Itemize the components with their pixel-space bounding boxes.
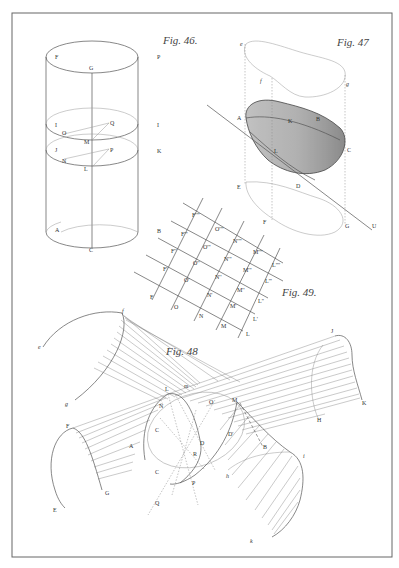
label-L48: L bbox=[165, 386, 169, 392]
label-H48: H bbox=[317, 417, 322, 423]
label-g48: g bbox=[65, 401, 68, 407]
grid-label: N'''' bbox=[233, 238, 242, 244]
label-K: K bbox=[157, 148, 162, 154]
label-B48: B bbox=[263, 444, 267, 450]
grid-label: O bbox=[174, 304, 179, 310]
label-g: g bbox=[346, 81, 349, 87]
label-L: L bbox=[84, 166, 88, 172]
figure-49-title: Fig. 49. bbox=[281, 286, 317, 298]
grid-label: F'' bbox=[171, 248, 177, 254]
grid-label: F' bbox=[163, 266, 167, 272]
grid-label: M' bbox=[230, 303, 236, 309]
grid-label: N' bbox=[207, 292, 212, 298]
grid-label: L'' bbox=[258, 298, 264, 304]
grid-label: O' bbox=[184, 277, 189, 283]
label-B47: B bbox=[316, 116, 320, 122]
grid-label: L' bbox=[253, 316, 258, 322]
label-P48: P bbox=[192, 480, 196, 486]
label-e48: e bbox=[38, 344, 41, 350]
label-J: J bbox=[55, 147, 58, 153]
label-C47: C bbox=[347, 147, 351, 153]
grid-label: M'''' bbox=[253, 249, 263, 255]
figure-46-title: Fig. 46. bbox=[162, 34, 198, 46]
label-i48: i bbox=[303, 453, 305, 459]
label-e: e bbox=[240, 41, 243, 47]
figure-47-projection: Fig. 47 e f g A K B L C E D F G U bbox=[207, 36, 377, 235]
label-A: A bbox=[55, 227, 60, 233]
label-C48a: C bbox=[155, 427, 159, 433]
grid-label: M'' bbox=[237, 287, 245, 293]
label-Q: Q bbox=[110, 120, 115, 126]
label-P-mid: P bbox=[110, 147, 114, 153]
engraving-plate: Fig. 46. F G P I O Q M I J N P L K A B bbox=[0, 0, 399, 568]
label-D48: D bbox=[200, 440, 205, 446]
label-G47: G bbox=[345, 223, 350, 229]
label-Q48: Q bbox=[155, 500, 160, 506]
label-D47: D bbox=[296, 183, 301, 189]
label-K47: K bbox=[288, 118, 293, 124]
grid-label: O'' bbox=[193, 260, 200, 266]
label-N: N bbox=[62, 158, 67, 164]
label-F: F bbox=[55, 54, 59, 60]
grid-label: L''' bbox=[265, 278, 272, 284]
label-K48: K bbox=[362, 400, 367, 406]
label-A47: A bbox=[237, 115, 242, 121]
label-M: M bbox=[84, 139, 90, 145]
label-F48: F bbox=[66, 423, 70, 429]
label-M48: M bbox=[232, 397, 238, 403]
label-O48: O bbox=[209, 399, 214, 405]
label-E48: E bbox=[53, 507, 57, 513]
grid-label: N'' bbox=[215, 274, 222, 280]
label-D2-48: D' bbox=[228, 431, 233, 437]
figure-49-grid: Fig. 49. F'''' O'''' N'''' M'''' L'''' F… bbox=[134, 198, 317, 338]
label-P: P bbox=[157, 54, 161, 60]
grid-label: M''' bbox=[243, 267, 252, 273]
label-J48: J bbox=[331, 328, 334, 334]
label-B: B bbox=[157, 228, 161, 234]
figure-48-intersecting-cylinders: Fig. 48 bbox=[38, 308, 367, 544]
grid-label: M bbox=[221, 323, 227, 329]
label-G: G bbox=[89, 65, 94, 71]
grid-label: L'''' bbox=[272, 262, 280, 268]
label-E47: E bbox=[237, 184, 241, 190]
label-f48: f bbox=[122, 308, 125, 314]
grid-label: O''' bbox=[203, 244, 211, 250]
label-k48: k bbox=[250, 538, 253, 544]
grid-label: N bbox=[199, 313, 204, 319]
label-I-right: I bbox=[157, 122, 159, 128]
grid-label: F'''' bbox=[192, 212, 200, 218]
label-F47: F bbox=[263, 219, 267, 225]
grid-label: N''' bbox=[224, 256, 232, 262]
label-N48: N bbox=[159, 403, 164, 409]
grid-label: L bbox=[246, 331, 250, 337]
grid-label: O'''' bbox=[215, 226, 224, 232]
grid-label: F''' bbox=[181, 231, 188, 237]
label-R48: R bbox=[193, 451, 197, 457]
label-f: f bbox=[260, 78, 263, 84]
figure-48-title: Fig. 48 bbox=[165, 345, 198, 357]
figure-47-title: Fig. 47 bbox=[336, 36, 369, 48]
label-O: O bbox=[62, 130, 67, 136]
label-C48b: C bbox=[155, 469, 159, 475]
label-h48: h bbox=[226, 473, 229, 479]
label-A48: A bbox=[129, 443, 134, 449]
label-L47: L bbox=[274, 148, 278, 154]
figure-46-cylinder: Fig. 46. F G P I O Q M I J N P L K A B bbox=[46, 34, 198, 253]
label-G48: G bbox=[105, 490, 110, 496]
label-I: I bbox=[55, 122, 57, 128]
label-U47: U bbox=[372, 223, 377, 229]
label-m48: m bbox=[184, 383, 189, 389]
label-C: C bbox=[89, 247, 93, 253]
